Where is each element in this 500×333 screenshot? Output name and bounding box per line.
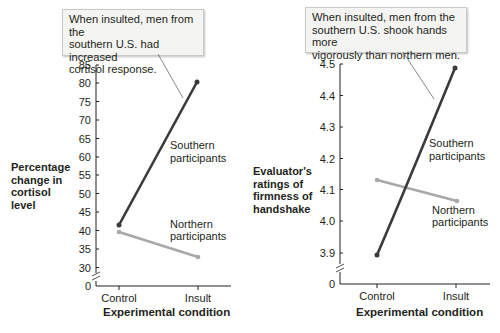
y-tick-label: 60 bbox=[79, 151, 91, 163]
y-tick-label: 80 bbox=[79, 77, 91, 89]
data-point bbox=[375, 253, 380, 258]
northern-series-label: participants bbox=[432, 216, 489, 228]
northern-series-line bbox=[377, 180, 457, 201]
y-tick-label: 45 bbox=[79, 206, 91, 218]
southern-series-label: Southern bbox=[170, 139, 215, 151]
y-tick-label: 4.5 bbox=[320, 58, 335, 70]
y-tick-label: 30 bbox=[79, 262, 91, 274]
callout-pointer bbox=[158, 54, 183, 98]
y-tick-label: 75 bbox=[79, 96, 91, 108]
x-tick-label-control: Control bbox=[359, 290, 394, 302]
data-point bbox=[117, 230, 122, 235]
y-tick-label: 0 bbox=[329, 278, 335, 290]
y-tick-label: 55 bbox=[79, 169, 91, 181]
data-point bbox=[455, 199, 460, 204]
southern-series-label: participants bbox=[170, 152, 227, 164]
y-tick-label: 4.4 bbox=[320, 90, 335, 102]
data-point bbox=[196, 255, 201, 260]
y-tick-label: 4.3 bbox=[320, 121, 335, 133]
y-tick-label: 4.1 bbox=[320, 184, 335, 196]
southern-series-label: Southern bbox=[429, 137, 474, 149]
y-tick-label: 50 bbox=[79, 188, 91, 200]
y-tick-label: 70 bbox=[79, 114, 91, 126]
data-point bbox=[375, 178, 380, 183]
callout-pointer bbox=[403, 52, 434, 99]
y-tick-label: 40 bbox=[79, 225, 91, 237]
y-tick-label: 0 bbox=[85, 280, 91, 292]
northern-series-label: Northern bbox=[432, 204, 475, 216]
left-chart: Control Insult 85 80 75 70 65 60 55 50 4… bbox=[79, 54, 231, 304]
northern-series-label: participants bbox=[170, 230, 227, 242]
x-tick-label-insult: Insult bbox=[185, 292, 211, 304]
x-tick-label-insult: Insult bbox=[443, 290, 469, 302]
y-tick-label: 65 bbox=[79, 133, 91, 145]
y-tick-label: 3.9 bbox=[320, 247, 335, 259]
northern-series-label: Northern bbox=[170, 218, 213, 230]
x-tick-label-control: Control bbox=[101, 292, 136, 304]
y-tick-label: 85 bbox=[79, 59, 91, 71]
data-point bbox=[117, 223, 122, 228]
southern-series-label: participants bbox=[429, 150, 486, 162]
charts-canvas: Control Insult 85 80 75 70 65 60 55 50 4… bbox=[0, 0, 500, 333]
right-chart: Control Insult 4.5 4.4 4.3 4.2 4.1 4.0 3… bbox=[320, 52, 490, 302]
data-point bbox=[195, 80, 200, 85]
axis-break-icon bbox=[336, 264, 344, 272]
y-tick-label: 4.2 bbox=[320, 153, 335, 165]
data-point bbox=[453, 66, 458, 71]
y-tick-label: 35 bbox=[79, 243, 91, 255]
y-tick-label: 4.0 bbox=[320, 215, 335, 227]
axis-break-icon bbox=[92, 272, 100, 280]
